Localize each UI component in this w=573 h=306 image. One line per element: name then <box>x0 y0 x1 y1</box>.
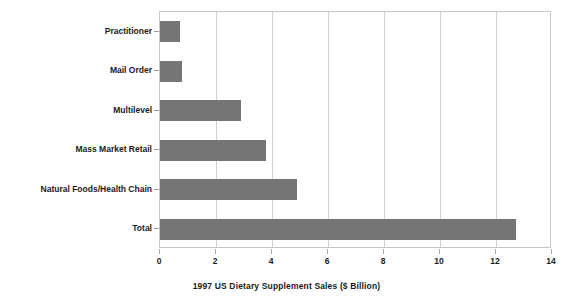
x-tick-mark <box>271 249 272 254</box>
category-tick <box>154 228 159 229</box>
category-label: Natural Foods/Health Chain <box>0 184 152 194</box>
x-tick-label: 8 <box>368 256 398 266</box>
category-label: Mail Order <box>0 65 152 75</box>
x-tick-mark <box>383 249 384 254</box>
x-tick-label: 10 <box>424 256 454 266</box>
x-tick-label: 0 <box>144 256 174 266</box>
category-tick <box>154 110 159 111</box>
plot-area <box>159 11 551 248</box>
bar <box>160 61 182 82</box>
category-label: Mass Market Retail <box>0 144 152 154</box>
x-tick-mark <box>495 249 496 254</box>
category-label: Total <box>0 223 152 233</box>
category-label: Multilevel <box>0 105 152 115</box>
category-tick <box>154 149 159 150</box>
x-axis-title: 1997 US Dietary Supplement Sales ($ Bill… <box>0 281 573 291</box>
gridline <box>496 12 497 247</box>
gridline <box>216 12 217 247</box>
x-tick-mark <box>215 249 216 254</box>
category-tick <box>154 70 159 71</box>
bar-chart-figure: PractitionerMail OrderMultilevelMass Mar… <box>0 0 573 306</box>
gridline <box>440 12 441 247</box>
gridline <box>384 12 385 247</box>
bar <box>160 100 241 121</box>
x-tick-label: 2 <box>200 256 230 266</box>
x-tick-mark <box>551 249 552 254</box>
category-tick <box>154 31 159 32</box>
bar <box>160 140 266 161</box>
gridline <box>272 12 273 247</box>
x-tick-label: 14 <box>536 256 566 266</box>
bar <box>160 219 516 240</box>
x-tick-mark <box>159 249 160 254</box>
x-tick-label: 6 <box>312 256 342 266</box>
x-tick-label: 4 <box>256 256 286 266</box>
x-tick-mark <box>439 249 440 254</box>
bar <box>160 179 297 200</box>
category-tick <box>154 189 159 190</box>
category-label: Practitioner <box>0 26 152 36</box>
bar <box>160 21 180 42</box>
x-tick-mark <box>327 249 328 254</box>
x-tick-label: 12 <box>480 256 510 266</box>
gridline <box>328 12 329 247</box>
